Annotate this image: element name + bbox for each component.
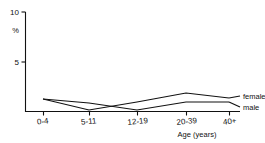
series-label-male: male [243,103,259,112]
y-tick-label-5: 5 [15,58,20,67]
chart-canvas: 10 5 % 0-4 5-11 12-19 20-39 40+ Age (yea… [0,0,265,143]
x-tick-labels: 0-4 5-11 12-19 20-39 40+ [37,116,238,127]
series-line-male [43,99,229,110]
x-tick-label-20-39: 20-39 [176,116,198,127]
x-tick-label-40plus: 40+ [223,116,238,126]
line-chart: 10 5 % 0-4 5-11 12-19 20-39 40+ Age (yea… [0,0,265,143]
x-tick-label-12-19: 12-19 [127,116,149,127]
series-label-female: female [243,92,265,101]
x-axis-title: Age (years) [178,130,217,139]
y-tick-label-10: 10 [10,8,19,17]
y-axis-unit-label: % [12,26,19,35]
series-leader-male [229,102,240,107]
series-leader-female [229,96,240,98]
x-tick-label-0-4: 0-4 [37,116,50,126]
x-tick-label-5-11: 5-11 [81,116,98,127]
